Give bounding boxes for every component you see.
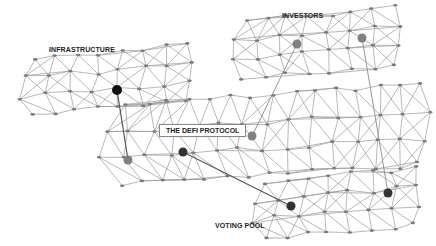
mesh-node xyxy=(428,111,432,114)
mesh-node xyxy=(353,89,357,92)
mesh-node xyxy=(105,130,109,133)
mesh-node xyxy=(372,192,376,195)
mesh-node xyxy=(208,98,212,101)
mesh-node xyxy=(121,49,125,52)
mesh-node xyxy=(350,67,354,70)
mesh-node xyxy=(373,68,377,71)
mesh-node xyxy=(366,209,370,212)
mesh-node xyxy=(414,165,418,168)
mesh-node xyxy=(295,90,299,93)
mesh-node xyxy=(324,31,328,34)
mesh-node xyxy=(398,25,402,28)
mesh-node xyxy=(336,117,340,120)
hub-node-infrastructure xyxy=(112,85,122,95)
mesh-node xyxy=(400,113,404,116)
mesh-node xyxy=(140,180,144,183)
mesh-node xyxy=(47,74,51,77)
mesh-node xyxy=(76,54,80,57)
mesh-node xyxy=(256,58,260,61)
mesh-node xyxy=(327,72,331,75)
mesh-node xyxy=(264,76,268,79)
mesh-node xyxy=(378,114,382,117)
mesh-node xyxy=(411,222,415,225)
mesh-node xyxy=(152,130,156,133)
mesh-node xyxy=(300,35,304,38)
mesh-node xyxy=(286,179,290,182)
mesh-node xyxy=(68,70,72,73)
mesh-node xyxy=(331,15,335,18)
mesh-node xyxy=(356,140,360,143)
mesh-node xyxy=(345,189,349,192)
mesh-node xyxy=(398,84,402,87)
infrastructure-label: INFRASTRUCTURE xyxy=(49,46,115,53)
mesh-node xyxy=(414,184,418,187)
mesh-node xyxy=(228,94,232,97)
hub-node-defi_protocol xyxy=(179,148,188,157)
mesh-node xyxy=(164,65,168,68)
mesh-node xyxy=(72,108,76,111)
voting-pool-mesh xyxy=(250,165,421,239)
mesh-node xyxy=(239,78,243,81)
mesh-node xyxy=(330,140,334,143)
mesh-node xyxy=(389,207,393,210)
mesh-node xyxy=(307,73,311,76)
mesh-node xyxy=(347,30,351,33)
mesh-node xyxy=(286,118,290,121)
mesh-node xyxy=(123,103,127,106)
mesh-node xyxy=(96,73,100,76)
mesh-node xyxy=(334,87,338,90)
mesh-node xyxy=(310,168,314,171)
mesh-node xyxy=(302,195,306,198)
mesh-node xyxy=(125,130,129,133)
mesh-node xyxy=(348,231,352,234)
mesh-node xyxy=(306,178,310,181)
mesh-node xyxy=(285,237,289,240)
connector-defi_protocol-to-voting_pool xyxy=(183,152,291,206)
mesh-node xyxy=(162,85,166,88)
mesh-node xyxy=(332,167,336,170)
mesh-node xyxy=(379,84,383,87)
mesh-node xyxy=(398,167,402,170)
mesh-node xyxy=(286,172,290,175)
mesh-node xyxy=(187,79,191,82)
mesh-node xyxy=(54,113,58,116)
mesh-node xyxy=(235,146,239,149)
mesh-node xyxy=(348,11,352,14)
mesh-node xyxy=(191,152,195,155)
mesh-node xyxy=(89,91,93,94)
hub-node-voting_pool xyxy=(287,202,296,211)
voting-pool-label: VOTING POOL xyxy=(215,222,265,229)
mesh-node xyxy=(43,91,47,94)
mesh-node xyxy=(346,47,350,50)
mesh-node xyxy=(297,215,301,218)
mesh-node xyxy=(322,210,326,213)
mesh-node xyxy=(215,149,219,152)
mesh-node xyxy=(423,140,427,143)
mesh-node xyxy=(144,65,148,68)
mesh-node xyxy=(393,4,397,7)
mesh-node xyxy=(326,174,330,177)
mesh-node xyxy=(115,68,119,71)
mesh-node xyxy=(267,171,271,174)
mesh-node xyxy=(247,176,251,179)
mesh-node xyxy=(392,64,396,67)
mesh-node xyxy=(371,44,375,47)
mesh-node xyxy=(97,156,101,159)
hub-node-defi_protocol xyxy=(124,156,133,165)
mesh-node xyxy=(398,138,402,141)
mesh-node xyxy=(96,105,100,108)
mesh-node xyxy=(120,184,124,187)
mesh-node xyxy=(253,203,257,206)
mesh-node xyxy=(307,146,311,149)
mesh-node xyxy=(265,123,269,126)
mesh-node xyxy=(148,103,152,106)
mesh-node xyxy=(18,98,22,101)
mesh-node xyxy=(232,38,236,41)
defi-network-diagram xyxy=(0,0,436,246)
mesh-node xyxy=(373,25,377,28)
hub-node-investors xyxy=(358,34,367,43)
mesh-node xyxy=(358,116,362,119)
mesh-node xyxy=(187,98,191,101)
mesh-node xyxy=(310,116,314,119)
mesh-node xyxy=(285,148,289,151)
